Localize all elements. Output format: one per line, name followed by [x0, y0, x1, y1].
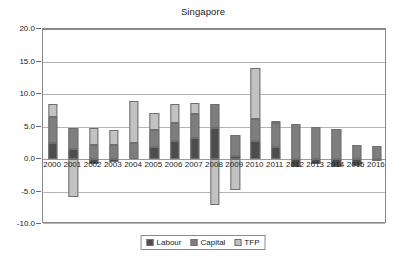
legend-item-tfp[interactable]: TFP	[234, 238, 259, 247]
bar-segment-capital-2010[interactable]	[251, 119, 260, 142]
chart-legend: LabourCapitalTFP	[141, 235, 266, 250]
bar-segment-labour-2012[interactable]	[291, 159, 300, 167]
bar-segment-tfp-2008[interactable]	[210, 159, 219, 205]
bar-segment-capital-2008[interactable]	[210, 104, 219, 129]
bar-group-2006[interactable]	[164, 29, 184, 222]
bar-segment-capital-2004[interactable]	[129, 143, 138, 159]
bar-segment-capital-2015[interactable]	[352, 145, 361, 159]
y-axis: 20.015.010.05.00.0-5.0-10.0	[0, 28, 40, 223]
bar-segment-labour-2016[interactable]	[372, 159, 381, 161]
gridline--10.0	[43, 223, 385, 224]
y-tick-mark	[36, 93, 41, 94]
bar-segment-capital-2016[interactable]	[372, 146, 381, 159]
bar-segment-labour-2010[interactable]	[251, 141, 260, 159]
bar-segment-labour-2006[interactable]	[170, 141, 179, 159]
legend-label: TFP	[244, 238, 259, 247]
y-tick-label: 0.0	[24, 154, 35, 163]
bar-segment-capital-2000[interactable]	[48, 117, 57, 142]
bar-segment-labour-2001[interactable]	[69, 149, 78, 159]
legend-swatch-icon	[190, 239, 197, 246]
bar-segment-capital-2007[interactable]	[190, 114, 199, 138]
legend-label: Capital	[200, 238, 225, 247]
bar-segment-labour-2014[interactable]	[332, 159, 341, 167]
bar-group-2004[interactable]	[124, 29, 144, 222]
bar-segment-labour-2008[interactable]	[210, 128, 219, 159]
bar-segment-tfp-2001[interactable]	[69, 159, 78, 197]
bar-group-2009[interactable]	[225, 29, 245, 222]
bar-segment-labour-2011[interactable]	[271, 147, 280, 159]
bar-group-2012[interactable]	[286, 29, 306, 222]
bar-segment-capital-2009[interactable]	[231, 135, 240, 156]
y-tick-mark	[36, 158, 41, 159]
bar-group-2011[interactable]	[266, 29, 286, 222]
bars-layer	[43, 29, 385, 222]
bar-segment-labour-2013[interactable]	[312, 159, 321, 164]
bar-segment-labour-2002[interactable]	[89, 159, 98, 164]
bar-group-2015[interactable]	[347, 29, 367, 222]
bar-segment-tfp-2002[interactable]	[89, 128, 98, 144]
y-tick-mark	[36, 126, 41, 127]
chart-title: Singapore	[0, 6, 406, 17]
y-tick-mark	[36, 61, 41, 62]
bar-group-2014[interactable]	[326, 29, 346, 222]
bar-segment-capital-2005[interactable]	[150, 130, 159, 147]
y-tick-label: -10.0	[17, 219, 35, 228]
legend-swatch-icon	[234, 239, 241, 246]
bar-segment-tfp-2006[interactable]	[170, 104, 179, 123]
legend-swatch-icon	[147, 239, 154, 246]
bar-segment-capital-2012[interactable]	[291, 124, 300, 159]
plot-area	[42, 28, 386, 223]
y-tick-mark	[36, 28, 41, 29]
bar-segment-labour-2007[interactable]	[190, 138, 199, 159]
chart-container: Singapore 20.015.010.05.00.0-5.0-10.0 20…	[0, 0, 406, 266]
bar-segment-labour-2000[interactable]	[48, 143, 57, 159]
bar-segment-capital-2001[interactable]	[69, 128, 78, 148]
y-tick-label: 5.0	[24, 121, 35, 130]
bar-group-2002[interactable]	[83, 29, 103, 222]
bar-group-2000[interactable]	[43, 29, 63, 222]
y-tick-label: -5.0	[21, 186, 35, 195]
y-tick-mark	[36, 191, 41, 192]
y-tick-label: 20.0	[19, 24, 35, 33]
bar-group-2001[interactable]	[63, 29, 83, 222]
bar-segment-capital-2011[interactable]	[271, 123, 280, 148]
y-tick-label: 10.0	[19, 89, 35, 98]
bar-segment-tfp-2009[interactable]	[231, 159, 240, 190]
bar-segment-tfp-2007[interactable]	[190, 103, 199, 114]
bar-segment-labour-2003[interactable]	[109, 159, 118, 162]
bar-segment-tfp-2005[interactable]	[150, 113, 159, 130]
bar-segment-labour-2015[interactable]	[352, 159, 361, 166]
plot-inner	[43, 29, 385, 222]
bar-group-2013[interactable]	[306, 29, 326, 222]
bar-segment-tfp-2011[interactable]	[271, 121, 280, 123]
bar-group-2003[interactable]	[104, 29, 124, 222]
bar-segment-capital-2013[interactable]	[312, 127, 321, 160]
legend-item-capital[interactable]: Capital	[190, 238, 225, 247]
bar-group-2007[interactable]	[185, 29, 205, 222]
bar-group-2008[interactable]	[205, 29, 225, 222]
bar-segment-capital-2003[interactable]	[109, 145, 118, 159]
bar-group-2016[interactable]	[367, 29, 387, 222]
bar-group-2010[interactable]	[245, 29, 265, 222]
bar-segment-capital-2002[interactable]	[89, 145, 98, 159]
y-tick-label: 15.0	[19, 56, 35, 65]
bar-group-2005[interactable]	[144, 29, 164, 222]
bar-segment-tfp-2010[interactable]	[251, 68, 260, 119]
bar-segment-tfp-2003[interactable]	[109, 130, 118, 146]
bar-segment-labour-2005[interactable]	[150, 147, 159, 159]
bar-segment-tfp-2000[interactable]	[48, 104, 57, 118]
legend-label: Labour	[157, 238, 182, 247]
bar-segment-capital-2014[interactable]	[332, 129, 341, 159]
y-tick-mark	[36, 223, 41, 224]
legend-item-labour[interactable]: Labour	[147, 238, 182, 247]
bar-segment-capital-2006[interactable]	[170, 123, 179, 141]
bar-segment-tfp-2004[interactable]	[129, 101, 138, 143]
